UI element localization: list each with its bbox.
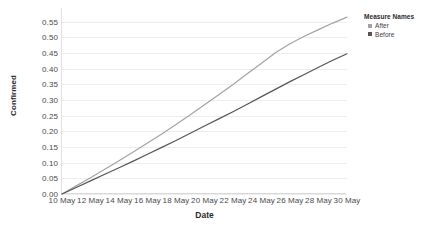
y-axis-tick-label: 0.30 (42, 96, 58, 105)
line-chart: Confirmed 0.000.050.100.150.200.250.300.… (0, 0, 434, 234)
gridline (62, 194, 347, 195)
x-axis-tick-label: 12 May (77, 196, 104, 205)
plot-area (62, 14, 347, 194)
series-line-before (62, 54, 347, 194)
legend-item-label: Before (375, 31, 394, 38)
x-axis-tick-label: 14 May (106, 196, 133, 205)
x-axis-tick-label: 20 May (191, 196, 218, 205)
legend-item-label: After (375, 22, 389, 29)
x-axis-tick-label: 28 May (305, 196, 332, 205)
square-swatch-icon (368, 32, 372, 36)
y-axis-title-label: Confirmed (9, 75, 18, 116)
legend-items: AfterBefore (364, 22, 432, 38)
y-axis-tick-label: 0.20 (42, 127, 58, 136)
y-axis-tick-label: 0.05 (42, 174, 58, 183)
x-axis-title: Date (62, 210, 347, 220)
x-axis-tick-label: 18 May (163, 196, 190, 205)
y-axis-tick-label: 0.50 (42, 33, 58, 42)
legend: Measure Names AfterBefore (364, 13, 432, 39)
y-axis-tick-label: 0.55 (42, 17, 58, 26)
y-axis-tick-labels: 0.000.050.100.150.200.250.300.350.400.45… (20, 14, 60, 194)
y-axis-tick-label: 0.40 (42, 64, 58, 73)
x-axis-tick-label: 10 May (49, 196, 76, 205)
y-axis-tick-label: 0.10 (42, 158, 58, 167)
series-line-after (62, 17, 347, 194)
y-axis-tick-label: 0.35 (42, 80, 58, 89)
square-swatch-icon (368, 24, 372, 28)
legend-title: Measure Names (364, 13, 432, 20)
x-axis-tick-label: 30 May (334, 196, 361, 205)
series-lines (62, 14, 347, 194)
legend-item-after[interactable]: After (364, 22, 432, 29)
x-axis-tick-label: 22 May (220, 196, 247, 205)
x-axis-tick-label: 16 May (134, 196, 161, 205)
y-axis-tick-label: 0.45 (42, 49, 58, 58)
y-axis-tick-label: 0.25 (42, 111, 58, 120)
x-axis-tick-labels: 10 May12 May14 May16 May18 May20 May22 M… (62, 196, 347, 210)
y-axis-tick-label: 0.15 (42, 143, 58, 152)
legend-item-before[interactable]: Before (364, 31, 432, 38)
x-axis-tick-label: 26 May (277, 196, 304, 205)
y-axis-title: Confirmed (6, 0, 20, 190)
x-axis-tick-label: 24 May (248, 196, 275, 205)
